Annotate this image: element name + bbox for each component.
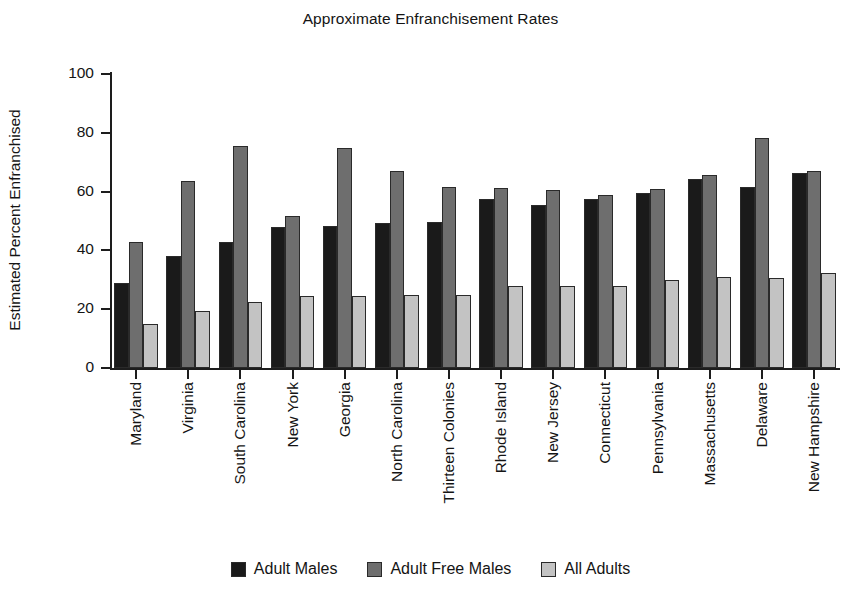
y-axis-tick-label: 100 xyxy=(46,65,94,81)
bar xyxy=(233,146,248,368)
legend-label: Adult Males xyxy=(254,560,338,578)
y-axis-tick-label-text: 20 xyxy=(50,300,94,316)
x-axis-label: Connecticut xyxy=(595,382,615,542)
x-axis-label-text: New Jersey xyxy=(545,382,561,463)
x-axis-label: North Carolina xyxy=(387,382,407,542)
bar xyxy=(702,175,717,368)
y-axis-tick-label: 80 xyxy=(46,124,94,140)
bar xyxy=(717,277,732,368)
bar xyxy=(740,187,755,368)
bar xyxy=(479,199,494,368)
bar xyxy=(665,280,680,368)
x-axis-tick xyxy=(709,370,711,379)
x-axis-label-text: Connecticut xyxy=(598,382,614,464)
x-axis-tick xyxy=(657,370,659,379)
legend-swatch-icon xyxy=(541,562,556,577)
y-axis-tick-label-text: 80 xyxy=(50,124,94,140)
y-axis-tick-label-text: 40 xyxy=(50,241,94,257)
x-axis-label: Pennsylvania xyxy=(648,382,668,542)
bar xyxy=(248,302,263,368)
y-axis-tick-label: 40 xyxy=(46,241,94,257)
bar-chart: Approximate Enfranchisement Rates Estima… xyxy=(0,0,861,607)
bar xyxy=(390,171,405,368)
x-axis-tick xyxy=(500,370,502,379)
bar xyxy=(181,181,196,368)
bar xyxy=(285,216,300,368)
y-axis-title: Estimated Percent Enfranchised xyxy=(0,70,30,370)
bar xyxy=(404,295,419,368)
y-axis-title-text: Estimated Percent Enfranchised xyxy=(6,109,24,330)
x-axis-tick xyxy=(239,370,241,379)
y-axis-tick xyxy=(101,73,110,75)
y-axis-tick-label-text: 0 xyxy=(50,359,94,375)
bar xyxy=(323,226,338,368)
y-axis-tick-label-text: 60 xyxy=(50,183,94,199)
x-axis-label-text: New York xyxy=(285,382,301,447)
plot-area xyxy=(110,74,840,368)
x-axis-tick xyxy=(344,370,346,379)
legend-label: All Adults xyxy=(564,560,630,578)
x-axis-line xyxy=(110,368,840,370)
legend-item[interactable]: Adult Free Males xyxy=(367,560,511,578)
bar xyxy=(508,286,523,368)
bar xyxy=(792,173,807,368)
chart-title: Approximate Enfranchisement Rates xyxy=(0,10,861,28)
bar xyxy=(598,195,613,368)
y-axis-tick xyxy=(101,367,110,369)
x-axis-label-text: Delaware xyxy=(754,382,770,447)
x-axis-label: New York xyxy=(283,382,303,542)
x-axis-label: Maryland xyxy=(126,382,146,542)
x-axis-tick xyxy=(292,370,294,379)
x-axis-label: South Carolina xyxy=(230,382,250,542)
x-axis-label: Georgia xyxy=(335,382,355,542)
x-axis-label-text: Georgia xyxy=(337,382,353,437)
x-axis-tick xyxy=(135,370,137,379)
bar xyxy=(143,324,158,368)
bar xyxy=(271,227,286,368)
x-axis-label: New Jersey xyxy=(543,382,563,542)
legend-item[interactable]: All Adults xyxy=(541,560,630,578)
bar xyxy=(114,283,129,368)
x-axis-label-text: Pennsylvania xyxy=(650,382,666,474)
x-axis-tick xyxy=(604,370,606,379)
bar xyxy=(546,190,561,368)
bar xyxy=(688,179,703,368)
legend-label: Adult Free Males xyxy=(390,560,511,578)
bar xyxy=(769,278,784,368)
legend-swatch-icon xyxy=(367,562,382,577)
bar xyxy=(821,273,836,368)
bar xyxy=(219,242,234,368)
bar xyxy=(166,256,181,368)
bar xyxy=(807,171,822,368)
y-axis-tick xyxy=(101,308,110,310)
y-axis-tick-label: 60 xyxy=(46,183,94,199)
bar xyxy=(352,296,367,368)
legend-item[interactable]: Adult Males xyxy=(231,560,338,578)
x-axis-tick xyxy=(396,370,398,379)
x-axis-tick xyxy=(813,370,815,379)
x-axis-label: Rhode Island xyxy=(491,382,511,542)
x-axis-label-text: New Hampshire xyxy=(806,382,822,492)
bar xyxy=(442,187,457,368)
bar xyxy=(337,148,352,368)
x-axis-label-text: South Carolina xyxy=(233,382,249,485)
x-axis-tick xyxy=(448,370,450,379)
y-axis-tick xyxy=(101,191,110,193)
x-axis-label-text: Rhode Island xyxy=(493,382,509,473)
chart-legend: Adult MalesAdult Free MalesAll Adults xyxy=(0,560,861,578)
x-axis-label: Delaware xyxy=(752,382,772,542)
x-axis-label-text: Maryland xyxy=(128,382,144,446)
x-axis-label-text: Virginia xyxy=(180,382,196,433)
bar xyxy=(636,193,651,368)
y-axis-tick-label: 20 xyxy=(46,300,94,316)
x-axis-tick xyxy=(187,370,189,379)
legend-swatch-icon xyxy=(231,562,246,577)
y-axis-tick-label: 0 xyxy=(46,359,94,375)
bar xyxy=(427,222,442,368)
bar xyxy=(613,286,628,368)
x-axis-label: New Hampshire xyxy=(804,382,824,542)
x-axis-tick xyxy=(552,370,554,379)
bar xyxy=(129,242,144,368)
bar xyxy=(755,138,770,368)
bar xyxy=(456,295,471,368)
